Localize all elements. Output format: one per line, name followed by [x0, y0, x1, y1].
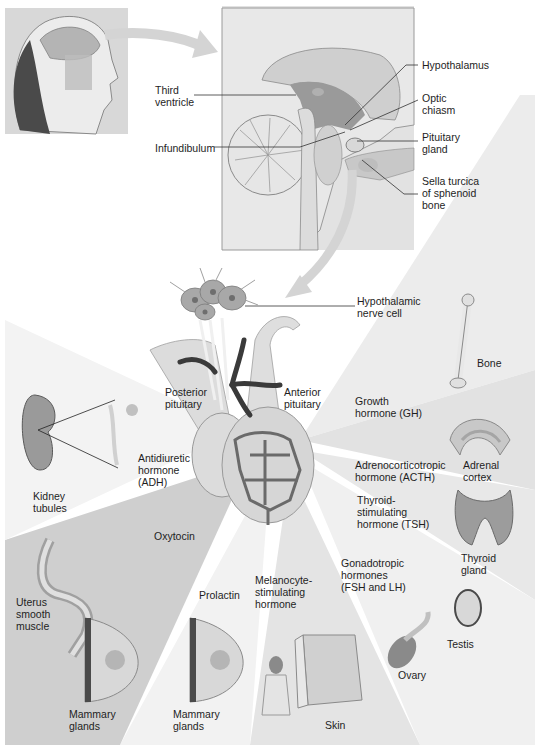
label-kidney-tubules: Kidney tubules [33, 490, 67, 514]
label-testis: Testis [447, 638, 474, 650]
label-tsh: Thyroid- stimulating hormone (TSH) [357, 494, 429, 530]
label-ovary: Ovary [398, 669, 426, 681]
head-profile-illustration [5, 8, 128, 134]
label-oxytocin: Oxytocin [154, 530, 195, 542]
label-skin: Skin [325, 719, 345, 731]
brain-sagittal-illustration [222, 6, 414, 250]
label-sella-turcica: Sella turcica of sphenoid bone [422, 175, 479, 211]
label-uterus: Uterus smooth muscle [16, 596, 50, 632]
label-adh: Antidiuretic hormone (ADH) [138, 452, 190, 488]
label-pituitary-gland: Pituitary gland [422, 131, 460, 155]
label-optic-chiasm: Optic chiasm [422, 92, 455, 116]
label-posterior-pituitary: Posterior pituitary [165, 386, 207, 410]
label-acth: Adrenocorticotropic hormone (ACTH) [355, 459, 445, 483]
label-gonadotropic: Gonadotropic hormones (FSH and LH) [341, 557, 406, 593]
label-hypothalamus: Hypothalamus [422, 59, 489, 71]
pituitary-diagram: Hypothalamus Third ventricle Optic chias… [0, 0, 538, 751]
label-mammary-glands-left: Mammary glands [69, 708, 116, 732]
label-msh: Melanocyte- stimulating hormone [255, 574, 312, 610]
label-thyroid-gland: Thyroid gland [461, 552, 496, 576]
label-anterior-pituitary: Anterior pituitary [284, 386, 321, 410]
label-third-ventricle: Third ventricle [155, 84, 194, 108]
testis-illustration [455, 590, 481, 626]
label-growth-hormone: Growth hormone (GH) [355, 395, 422, 419]
label-prolactin: Prolactin [199, 589, 240, 601]
label-adrenal-cortex: Adrenal cortex [463, 459, 499, 483]
label-hypothalamic-nerve-cell: Hypothalamic nerve cell [357, 295, 421, 319]
label-mammary-glands-right: Mammary glands [173, 708, 220, 732]
label-infundibulum: Infundibulum [155, 142, 215, 154]
label-bone: Bone [477, 357, 502, 369]
